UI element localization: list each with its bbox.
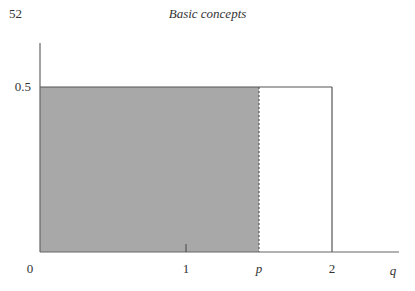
- x-axis-label: q: [390, 263, 397, 278]
- x-tick-label-0: 0: [27, 261, 34, 276]
- x-tick-label-1: 1: [183, 261, 190, 276]
- y-tick-label-0.5: 0.5: [15, 79, 31, 94]
- shaded-region: [40, 87, 259, 252]
- x-tick-label-2: 2: [329, 261, 336, 276]
- x-tick-label-p: p: [255, 261, 263, 276]
- uniform-density-chart: 01p2q0.5: [0, 0, 415, 291]
